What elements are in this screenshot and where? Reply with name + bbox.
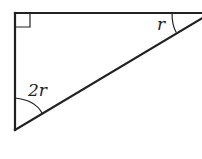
angle-arc-r [172, 13, 176, 32]
triangle-diagram: r 2r [0, 0, 202, 159]
angle-arc-2r [15, 98, 42, 113]
angle-label-2r: 2r [27, 80, 48, 100]
hypotenuse [15, 17, 202, 130]
angle-label-r: r [157, 14, 166, 34]
right-angle-marker [15, 13, 30, 27]
